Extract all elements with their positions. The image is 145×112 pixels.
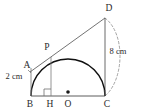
point-label-a: A xyxy=(24,60,31,70)
center-point-o-dot xyxy=(66,90,70,94)
point-label-c: C xyxy=(104,99,110,109)
geometry-figure: A B H O C P D 2 cm 8 cm xyxy=(0,0,145,112)
point-label-o: O xyxy=(65,99,72,109)
dimension-label-8cm: 8 cm xyxy=(110,46,127,56)
point-label-d: D xyxy=(106,3,113,13)
geometry-diagram-root: A B H O C P D 2 cm 8 cm xyxy=(0,0,145,112)
point-label-b: B xyxy=(27,99,33,109)
point-label-p: P xyxy=(44,42,49,52)
diagram-background xyxy=(0,0,145,112)
point-label-h: H xyxy=(47,99,54,109)
dimension-label-2cm: 2 cm xyxy=(6,71,23,81)
